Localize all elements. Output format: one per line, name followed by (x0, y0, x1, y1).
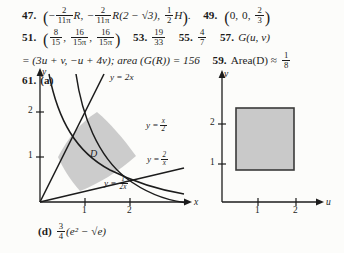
fraction-2-over-11pi-b: 211π (95, 6, 112, 25)
fraction-16-over-15pi-a: 1615π (71, 28, 88, 47)
period-47: . (188, 9, 191, 21)
fraction-2-over-3: 23 (255, 6, 263, 25)
y-tick-label-1: 1 (28, 150, 33, 160)
curve-label-y-1-over-2x: y =12x (104, 176, 129, 192)
answer-number-55: 55. (179, 32, 193, 44)
close-paren-51: ) (115, 31, 120, 51)
sign-47b: − (87, 9, 93, 21)
v-tick-label-1: 1 (210, 157, 215, 167)
y-axis-label: y (42, 66, 46, 77)
x-axis-arrow (184, 199, 192, 206)
answer-number-49: 49. (203, 9, 217, 21)
fraction-8-over-15: 815 (50, 28, 63, 47)
var-H: H (174, 9, 182, 21)
close-paren-49: ) (265, 9, 270, 29)
fraction-19-over-33: 1933 (152, 28, 165, 47)
v-tick-label-2: 2 (210, 117, 215, 127)
u-axis-arrow (316, 199, 324, 206)
part-label-d: (d) (38, 225, 52, 237)
answer-line-1: 47. (−211πR,−211πR(2 − √3),12H). 49. (0,… (22, 6, 338, 28)
part-d-expression: (e² − √e) (66, 225, 106, 237)
value-49-x: 0, (230, 9, 238, 21)
answer-number-47: 47. (22, 9, 36, 21)
answer-number-57: 57. (220, 32, 234, 44)
curve-frac-2-over-x: 2x (161, 152, 169, 168)
answer-number-53: 53. (133, 32, 147, 44)
fraction-2-over-11pi-a: 211π (56, 6, 73, 25)
sign-47a: − (49, 9, 55, 21)
comma-51b: , (89, 32, 92, 44)
curve-frac-1-over-2x: 12x (118, 176, 129, 192)
figure-uv-plane: v u 1 2 1 2 (208, 60, 344, 220)
uv-rectangle (236, 108, 294, 170)
comma-47b: , (157, 9, 160, 21)
figures-row: y x 1 2 1 2 D y = 2x y =x2 y =2x y =12x (0, 60, 344, 220)
open-paren-51: ( (43, 31, 48, 51)
answer-key-page: 47. (−211πR,−211πR(2 − √3),12H). 49. (0,… (0, 0, 344, 253)
function-G-uv: G(u, v) (238, 32, 270, 44)
curve-label-y-2x: y = 2x (110, 72, 134, 82)
value-49-y: 0, (242, 9, 250, 21)
region-label-D: D (90, 148, 97, 159)
curve-label-y-x-over-2: y =x2 (146, 118, 168, 134)
fraction-3-over-4: 34 (57, 222, 65, 241)
answer-part-d: (d)34(e² − √e) (38, 222, 106, 241)
x-tick-label-1: 1 (82, 205, 87, 215)
uv-plane-svg (208, 60, 344, 220)
fraction-1-over-2: 12 (165, 6, 173, 25)
u-axis-label: u (326, 196, 331, 207)
x-tick-label-2: 2 (127, 205, 132, 215)
u-tick-label-1: 1 (255, 205, 260, 215)
expr-R2-minus-sqrt3: R(2 − √3) (112, 9, 157, 21)
answer-number-51: 51. (22, 32, 36, 44)
curve-label-lhs-2: y = (147, 154, 160, 164)
comma-51a: , (63, 32, 66, 44)
fraction-4-over-7: 47 (198, 28, 206, 47)
curve-label-lhs-1: y = (146, 120, 159, 130)
curve-label-y-2-over-x: y =2x (147, 152, 169, 168)
xy-plane-svg (18, 60, 208, 220)
figure-xy-plane: y x 1 2 1 2 D y = 2x y =x2 y =2x y =12x (18, 60, 208, 220)
y-tick-label-2: 2 (28, 105, 33, 115)
x-axis-label: x (194, 196, 198, 207)
curve-frac-x-over-2: x2 (160, 118, 168, 134)
v-axis-label: v (224, 68, 228, 79)
u-tick-label-2: 2 (293, 205, 298, 215)
answer-line-2: 51. (815,1615π,1615π) 53.1933 55.47 57.G… (22, 28, 338, 50)
curve-label-lhs-3: y = (104, 178, 117, 188)
comma-47a: , (80, 9, 83, 21)
fraction-16-over-15pi-b: 1615π (97, 28, 114, 47)
